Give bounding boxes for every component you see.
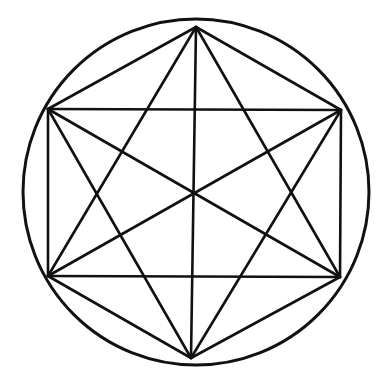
rectangle-bottom-edge <box>48 276 340 277</box>
triangle-down-left-side <box>48 109 191 358</box>
hexagon-edge-lower-right-bottom <box>191 277 340 358</box>
hexagon-edge-upper-left-top <box>48 27 196 109</box>
line-segments <box>48 27 341 358</box>
diagram-canvas <box>0 0 384 377</box>
hexagram-in-circle-diagram <box>0 0 384 377</box>
hexagon-edge-upper-right-lower-right <box>340 110 341 277</box>
